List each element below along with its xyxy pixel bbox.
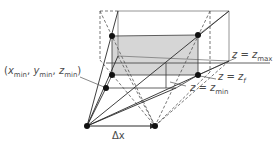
equals: = [195, 82, 210, 93]
zf-label: z = zf [218, 72, 246, 82]
delta-x-text: Δx [112, 130, 125, 141]
paren-close: ) [77, 65, 81, 76]
left-eye-rays [87, 11, 229, 126]
x-var: x [8, 65, 14, 76]
focal-plane [112, 35, 198, 75]
point [103, 85, 109, 91]
right-eye-point [152, 123, 158, 129]
left-eye-point [84, 123, 90, 129]
z-sub: min [215, 88, 228, 96]
point [109, 72, 115, 78]
point [109, 33, 115, 39]
delta-x-arrow [87, 123, 156, 129]
delta-x-label: Δx [112, 131, 125, 141]
point [195, 72, 201, 78]
x-sub: min [14, 71, 27, 79]
zmax-label: z = zmax [232, 50, 273, 60]
corner-label: (xmin, ymin, zmin) [4, 66, 81, 76]
y-sub: min [39, 71, 52, 79]
z-sub: f [243, 77, 245, 85]
equals: = [237, 49, 252, 60]
z-sub: min [64, 71, 77, 79]
z-sub: max [257, 55, 272, 63]
point [195, 32, 201, 38]
zmin-label: z = zmin [190, 83, 228, 93]
equals: = [223, 71, 238, 82]
